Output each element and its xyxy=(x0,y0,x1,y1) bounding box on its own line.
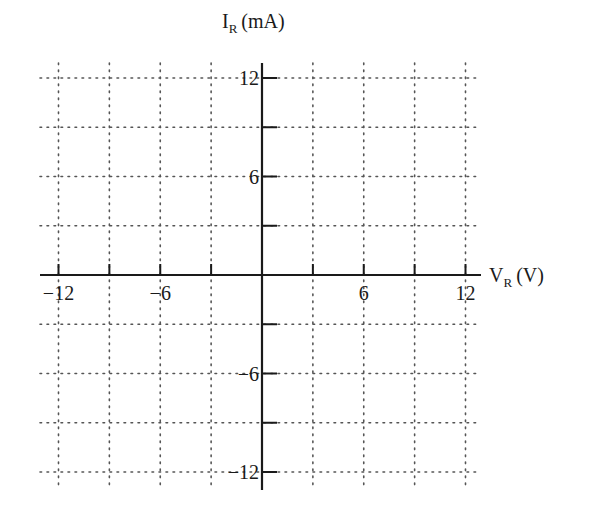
y-tick-label: −12 xyxy=(228,461,259,483)
iv-chart: −12−6612126−6−12 IR(mA) VR(V) xyxy=(0,0,594,520)
y-tick-label: 12 xyxy=(239,67,259,89)
x-tick-label: −6 xyxy=(150,282,171,304)
x-axis-label: VR(V) xyxy=(489,264,544,290)
y-tick-label: 6 xyxy=(249,166,259,188)
y-tick-label: −6 xyxy=(238,363,259,385)
grid-lines xyxy=(40,63,481,490)
y-axis-label: IR(mA) xyxy=(222,10,285,36)
x-tick-label: 6 xyxy=(359,282,369,304)
x-tick-label: 12 xyxy=(456,282,476,304)
x-tick-label: −12 xyxy=(43,282,74,304)
